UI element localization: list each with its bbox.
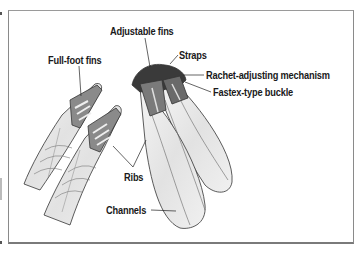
- label-straps: Straps: [179, 50, 207, 61]
- label-fastex-type-buckle: Fastex-type buckle: [213, 87, 293, 98]
- label-rachet-adjusting-mechanism: Rachet-adjusting mechanism: [206, 70, 330, 81]
- label-channels: Channels: [106, 205, 146, 216]
- label-adjustable-fins: Adjustable fins: [110, 26, 174, 37]
- fins-illustration: [0, 0, 362, 255]
- label-ribs: Ribs: [124, 172, 143, 183]
- label-full-foot-fins: Full-foot fins: [48, 55, 101, 66]
